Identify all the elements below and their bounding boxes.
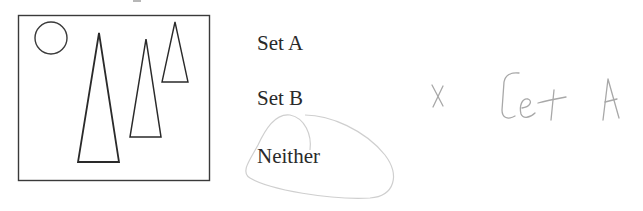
circle-shape — [35, 22, 67, 54]
figure-frame — [19, 16, 210, 181]
option-set-b[interactable]: Set B — [257, 88, 303, 109]
handwritten-set-a — [502, 73, 619, 120]
option-neither[interactable]: Neither — [257, 146, 320, 167]
small-triangle-shape — [162, 22, 188, 82]
handwritten-x-mark — [432, 85, 443, 107]
question-canvas — [0, 0, 643, 211]
large-triangle-shape — [78, 33, 119, 162]
figure-panel — [19, 16, 210, 181]
medium-triangle-shape — [130, 39, 161, 137]
option-set-a[interactable]: Set A — [257, 33, 303, 54]
